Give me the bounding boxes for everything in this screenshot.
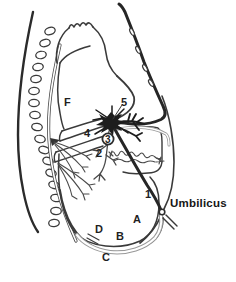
label-5: 5 [121, 96, 127, 108]
cord-stump-lines [163, 215, 177, 229]
label-umbilicus: Umbilicus [170, 197, 227, 209]
back-outline [18, 12, 38, 232]
label-4: 4 [84, 127, 91, 139]
label-d: D [95, 223, 103, 235]
label-3: 3 [105, 134, 111, 145]
anatomical-diagram-svg: F 5 4 3 2 1 A B C D Umbilicus [0, 0, 236, 282]
label-b: B [116, 230, 124, 242]
arch-branch-scallops [69, 23, 93, 28]
label-1: 1 [145, 188, 151, 200]
anatomical-figure: F 5 4 3 2 1 A B C D Umbilicus [0, 0, 236, 282]
scribble-texture [109, 151, 164, 164]
thick-vessel-upper [112, 4, 165, 124]
label-f: F [64, 96, 71, 108]
label-a: A [133, 213, 141, 225]
label-2: 2 [96, 147, 102, 159]
label-c: C [102, 251, 110, 263]
aortic-arch [57, 23, 118, 76]
lung-outline [58, 46, 90, 129]
